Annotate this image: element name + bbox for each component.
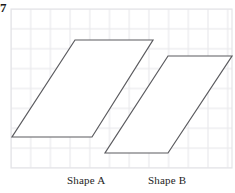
shape-a-label: Shape A bbox=[67, 174, 105, 187]
shapes-layer bbox=[0, 0, 235, 193]
figure-canvas: 7 Shape A Shape B bbox=[0, 0, 235, 193]
shape-b-label: Shape B bbox=[148, 174, 186, 187]
